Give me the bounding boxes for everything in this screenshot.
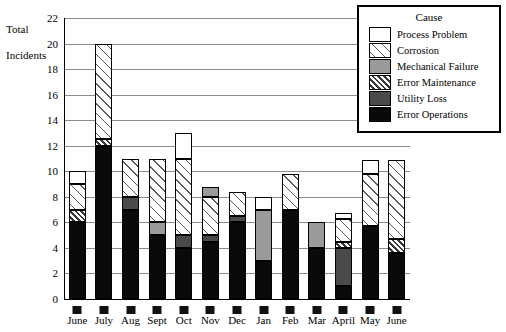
legend-item[interactable]: Mechanical Failure <box>369 58 499 74</box>
bar-segment[interactable] <box>69 171 86 184</box>
bar-segment[interactable] <box>229 222 246 299</box>
legend: Cause Process ProblemCorrosionMechanical… <box>357 5 501 133</box>
bar-stack[interactable]: Oct <box>175 18 192 299</box>
bar-segment[interactable] <box>335 219 352 242</box>
x-axis-tick-mark <box>99 306 108 314</box>
y-axis-tick-label: 16 <box>32 89 58 101</box>
bar-stack[interactable]: Aug <box>122 18 139 299</box>
bar-segment[interactable] <box>255 197 272 210</box>
bar-segment[interactable] <box>388 253 405 299</box>
y-axis-tick-label: 6 <box>32 216 58 228</box>
legend-item[interactable]: Error Operations <box>369 106 499 122</box>
y-axis-tick-label: 20 <box>32 38 58 50</box>
bar-segment[interactable] <box>335 248 352 286</box>
x-axis-tick-mark <box>179 306 188 314</box>
bar-segment[interactable] <box>308 222 325 248</box>
x-axis-tick-mark <box>286 306 295 314</box>
bar-segment[interactable] <box>95 146 112 299</box>
bar-segment[interactable] <box>175 248 192 299</box>
bar-segment[interactable] <box>362 174 379 226</box>
legend-swatch <box>369 107 391 122</box>
bar-stack[interactable]: June <box>69 18 86 299</box>
x-axis-tick-mark <box>233 306 242 314</box>
chart-figure: Total Incidents 0246810121416182022 June… <box>0 0 506 332</box>
y-axis-tick-label: 22 <box>32 12 58 24</box>
bar-segment[interactable] <box>282 174 299 210</box>
x-axis-tick-mark <box>73 306 82 314</box>
y-axis-title-line1: Total <box>6 23 28 35</box>
bar-segment[interactable] <box>202 235 219 241</box>
x-axis-tick-mark <box>259 306 268 314</box>
legend-swatch <box>369 59 391 74</box>
bar-segment[interactable] <box>175 133 192 159</box>
bar-segment[interactable] <box>149 222 166 235</box>
x-axis-tick-mark <box>153 306 162 314</box>
bar-stack[interactable]: Sept <box>149 18 166 299</box>
legend-swatch <box>369 91 391 106</box>
x-axis-tick-mark <box>339 306 348 314</box>
bar-segment[interactable] <box>69 184 86 210</box>
bar-stack[interactable]: Dec <box>229 18 246 299</box>
bar-stack[interactable]: Nov <box>202 18 219 299</box>
bar-segment[interactable] <box>229 216 246 222</box>
x-axis-tick-label: June <box>380 314 414 326</box>
bar-segment[interactable] <box>122 159 139 197</box>
legend-item[interactable]: Error Maintenance <box>369 74 499 90</box>
y-axis-tick-label: 12 <box>32 140 58 152</box>
bar-segment[interactable] <box>255 210 272 261</box>
legend-item-label: Error Operations <box>397 109 468 120</box>
bar-segment[interactable] <box>362 160 379 174</box>
bar-stack[interactable]: July <box>95 18 112 299</box>
y-axis-tick-label: 2 <box>32 267 58 279</box>
x-axis-tick-mark <box>366 306 375 314</box>
legend-item[interactable]: Process Problem <box>369 26 499 42</box>
y-axis-tick-labels: 0246810121416182022 <box>30 18 58 299</box>
bar-segment[interactable] <box>335 213 352 218</box>
y-axis-tick-label: 8 <box>32 191 58 203</box>
legend-item[interactable]: Corrosion <box>369 42 499 58</box>
bar-segment[interactable] <box>69 222 86 299</box>
x-axis-tick-mark <box>392 306 401 314</box>
y-axis-tick-label: 18 <box>32 63 58 75</box>
bar-segment[interactable] <box>95 44 112 140</box>
y-axis-tick-label: 4 <box>32 242 58 254</box>
legend-item-label: Utility Loss <box>397 93 447 104</box>
legend-item[interactable]: Utility Loss <box>369 90 499 106</box>
legend-item-label: Error Maintenance <box>397 77 476 88</box>
bar-segment[interactable] <box>122 197 139 210</box>
bar-stack[interactable]: Jan <box>255 18 272 299</box>
legend-items: Process ProblemCorrosionMechanical Failu… <box>369 26 499 122</box>
bar-segment[interactable] <box>229 192 246 216</box>
legend-title: Cause <box>359 11 499 23</box>
legend-item-label: Mechanical Failure <box>397 61 478 72</box>
bar-segment[interactable] <box>175 159 192 236</box>
legend-swatch <box>369 27 391 42</box>
bar-stack[interactable]: Feb <box>282 18 299 299</box>
bar-segment[interactable] <box>149 235 166 299</box>
bar-segment[interactable] <box>202 187 219 197</box>
bar-segment[interactable] <box>122 210 139 299</box>
bar-segment[interactable] <box>202 197 219 235</box>
bar-segment[interactable] <box>282 210 299 299</box>
bar-segment[interactable] <box>308 248 325 299</box>
bar-segment[interactable] <box>149 159 166 223</box>
bar-segment[interactable] <box>69 210 86 223</box>
legend-swatch <box>369 43 391 58</box>
bar-stack[interactable]: April <box>335 18 352 299</box>
bar-segment[interactable] <box>388 160 405 239</box>
bar-segment[interactable] <box>335 242 352 248</box>
x-axis-line <box>64 299 410 300</box>
legend-item-label: Process Problem <box>397 29 467 40</box>
bar-segment[interactable] <box>255 261 272 299</box>
bar-segment[interactable] <box>95 139 112 145</box>
legend-swatch <box>369 75 391 90</box>
bar-segment[interactable] <box>388 239 405 253</box>
x-axis-tick-mark <box>206 306 215 314</box>
x-axis-tick-mark <box>126 306 135 314</box>
bar-segment[interactable] <box>335 286 352 299</box>
x-axis-tick-mark <box>312 306 321 314</box>
bar-segment[interactable] <box>202 242 219 299</box>
bar-stack[interactable]: Mar <box>308 18 325 299</box>
bar-segment[interactable] <box>362 226 379 299</box>
bar-segment[interactable] <box>175 235 192 248</box>
